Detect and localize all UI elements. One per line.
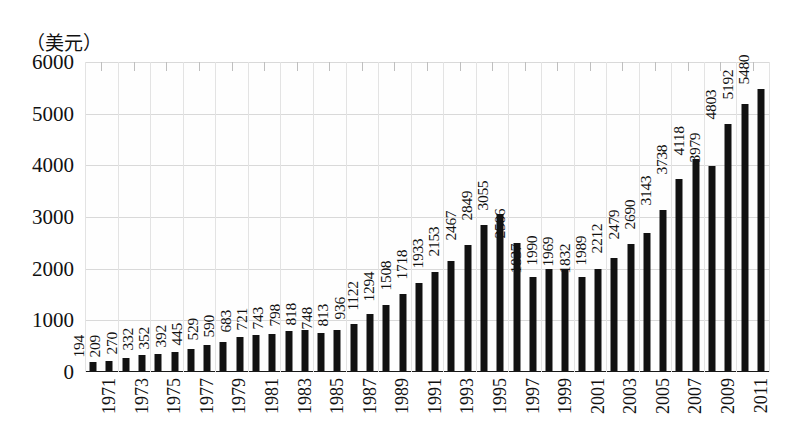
bar xyxy=(448,261,455,372)
bar-value-label: 5192 xyxy=(714,74,730,104)
y-axis-tick-label: 2000 xyxy=(32,258,74,279)
gridline-vertical xyxy=(671,62,672,372)
bar xyxy=(318,333,325,372)
x-axis-tick-label: 1979 xyxy=(230,378,248,414)
bar-value-label: 748 xyxy=(294,311,310,333)
bar xyxy=(220,342,227,372)
x-axis-tick-label: 1991 xyxy=(426,378,444,414)
bar-value-text: 3979 xyxy=(687,133,703,163)
bar-value-label: 1837 xyxy=(502,247,518,277)
bar xyxy=(301,330,308,372)
bar-value-label: 1933 xyxy=(405,242,421,272)
x-axis-tick-label: 1989 xyxy=(393,378,411,414)
bar-group: 1718 xyxy=(411,62,427,372)
bar xyxy=(562,270,569,372)
bar xyxy=(204,345,211,372)
bar xyxy=(383,305,390,372)
gridline-vertical xyxy=(118,62,119,372)
bar xyxy=(171,352,178,372)
bar xyxy=(692,159,699,372)
bar-value-label: 2690 xyxy=(616,203,632,233)
y-axis-tick-labels: 0100020003000400050006000 xyxy=(0,0,84,448)
bar-value-label: 2849 xyxy=(454,195,470,225)
bar-value-label: 2479 xyxy=(600,214,616,244)
bar xyxy=(676,179,683,372)
bar xyxy=(155,354,162,372)
bar xyxy=(660,210,667,372)
y-axis-tick-label: 4000 xyxy=(32,155,74,176)
x-axis-tick-label: 1999 xyxy=(556,378,574,414)
bar-value-label: 1718 xyxy=(388,253,404,283)
bar-group: 3738 xyxy=(671,62,687,372)
bar-value-label: 3738 xyxy=(649,149,665,179)
bar xyxy=(269,334,276,372)
bar-value-label: 798 xyxy=(262,308,278,330)
bar-group: 1990 xyxy=(541,62,557,372)
bar-value-label: 1294 xyxy=(356,275,372,305)
bar-value-label: 721 xyxy=(229,312,245,334)
gridline-vertical xyxy=(85,62,86,372)
gridline-vertical xyxy=(313,62,314,372)
x-axis-tick-label: 2003 xyxy=(621,378,639,414)
y-axis-tick-label: 1000 xyxy=(32,310,74,331)
bar-group: 2690 xyxy=(639,62,655,372)
bar-group: 270 xyxy=(118,62,134,372)
y-axis-tick-label: 6000 xyxy=(32,52,74,73)
x-axis-tick-label: 1995 xyxy=(491,378,509,414)
bar-value-label: 445 xyxy=(164,327,180,349)
bar-value-label: 590 xyxy=(197,319,213,341)
gridline-vertical xyxy=(508,62,509,372)
bar-value-label: 1832 xyxy=(551,248,567,278)
x-axis-tick-label: 2009 xyxy=(719,378,737,414)
bar-group: 5480 xyxy=(753,62,769,372)
bar-value-label: 1122 xyxy=(340,285,356,314)
gridline-vertical xyxy=(150,62,151,372)
bar-value-label: 270 xyxy=(99,336,115,358)
bar-group: 1508 xyxy=(394,62,410,372)
gridline-vertical xyxy=(476,62,477,372)
x-axis-tick-label: 1973 xyxy=(133,378,151,414)
bar-chart: （美元） 0100020003000400050006000 194209270… xyxy=(0,0,786,448)
bar-group: 1122 xyxy=(362,62,378,372)
bar xyxy=(480,225,487,372)
bar xyxy=(725,124,732,372)
bar-value-label: 3055 xyxy=(470,184,486,214)
x-axis-tick-label: 1971 xyxy=(100,378,118,414)
gridline-vertical xyxy=(411,62,412,372)
x-axis-tick-label: 1981 xyxy=(263,378,281,414)
bar xyxy=(252,335,259,372)
bar-group: 1837 xyxy=(525,62,541,372)
gridline-vertical xyxy=(541,62,542,372)
bar-group: 2506 xyxy=(508,62,524,372)
x-axis-tick-label: 1985 xyxy=(328,378,346,414)
y-axis-tick-label: 3000 xyxy=(32,207,74,228)
bar xyxy=(432,272,439,372)
bar xyxy=(643,233,650,372)
x-axis-tick-label: 2001 xyxy=(589,378,607,414)
bar-group: 813 xyxy=(329,62,345,372)
bar-value-label: 2506 xyxy=(486,213,502,243)
bar-value-label: 1508 xyxy=(372,264,388,294)
bar xyxy=(627,244,634,372)
bar-group: 4803 xyxy=(720,62,736,372)
bar-group: 936 xyxy=(346,62,362,372)
bar xyxy=(138,355,145,372)
bar xyxy=(415,283,422,372)
bar-value-label: 3143 xyxy=(633,180,649,210)
bar-value-text: 5480 xyxy=(735,55,751,85)
bar-value-label: 5480 xyxy=(730,59,746,89)
gridline-vertical xyxy=(248,62,249,372)
x-axis-tick-label: 2011 xyxy=(752,378,770,413)
bar-value-label: 2153 xyxy=(421,231,437,261)
bar-group: 1294 xyxy=(378,62,394,372)
x-axis-tick-label: 2005 xyxy=(654,378,672,414)
plot-area: 1942092703323523924455295906837217437988… xyxy=(85,62,769,372)
bar-value-label: 1989 xyxy=(568,239,584,269)
bar xyxy=(529,277,536,372)
gridline-vertical xyxy=(443,62,444,372)
gridline-vertical xyxy=(574,62,575,372)
bar-value-label: 2212 xyxy=(584,228,600,258)
bar xyxy=(366,314,373,372)
bar xyxy=(285,331,292,372)
x-axis-tick-labels: 1971197319751977197919811983198519871989… xyxy=(85,372,769,448)
